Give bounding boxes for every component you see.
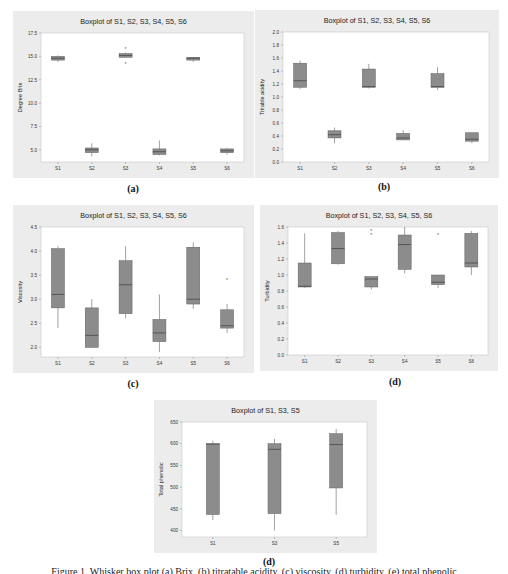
y-tick-label: 2.0 bbox=[31, 345, 38, 350]
box-iqr bbox=[398, 235, 411, 269]
x-tick-label: S6 bbox=[469, 359, 475, 364]
box-s5 bbox=[187, 242, 200, 308]
boxplot-chart: Boxplot of S1, S2, S3, S4, S5, S65.07.51… bbox=[13, 11, 254, 178]
outlier-marker: * bbox=[226, 277, 228, 283]
box-s1 bbox=[206, 441, 219, 520]
sublabel-d: (d) bbox=[375, 376, 415, 387]
y-axis-label: Total phenolic bbox=[158, 462, 164, 496]
box-iqr bbox=[51, 249, 64, 308]
x-tick-label: S3 bbox=[123, 361, 129, 366]
x-tick-label: S6 bbox=[224, 166, 230, 171]
box-iqr bbox=[187, 57, 200, 60]
chart-panel-d: Boxplot of S1, S2, S3, S4, S5, S60.00.20… bbox=[260, 205, 498, 371]
box-iqr bbox=[206, 444, 219, 515]
y-tick-label: 2.0 bbox=[273, 30, 280, 35]
y-tick-label: 7.5 bbox=[31, 124, 38, 129]
y-tick-label: 0.4 bbox=[273, 134, 280, 139]
y-axis-label: Turbidity bbox=[264, 280, 270, 301]
y-tick-label: 1.4 bbox=[273, 69, 280, 74]
x-tick-label: S1 bbox=[55, 166, 61, 171]
boxplot-chart: Boxplot of S1, S2, S3, S4, S5, S60.00.20… bbox=[260, 205, 498, 371]
x-tick-label: S5 bbox=[333, 541, 339, 546]
y-tick-label: 4.0 bbox=[31, 249, 38, 254]
y-tick-label: 450 bbox=[170, 507, 178, 512]
box-iqr bbox=[85, 148, 98, 153]
x-tick-label: S6 bbox=[224, 361, 230, 366]
x-tick-label: S5 bbox=[435, 359, 441, 364]
chart-title: Boxplot of S1, S2, S3, S4, S5, S6 bbox=[326, 211, 433, 220]
y-axis-label: Degree Brix bbox=[17, 83, 23, 113]
x-tick-label: S2 bbox=[335, 359, 341, 364]
x-tick-label: S6 bbox=[469, 166, 475, 171]
chart-panel-c: Boxplot of S1, S2, S3, S4, S5, S62.02.53… bbox=[13, 205, 254, 373]
y-tick-label: 1.8 bbox=[273, 43, 280, 48]
box-iqr bbox=[397, 133, 410, 140]
x-tick-label: S5 bbox=[190, 361, 196, 366]
y-tick-label: 1.2 bbox=[273, 82, 280, 87]
y-tick-label: 1.4 bbox=[278, 241, 285, 246]
y-tick-label: 4.5 bbox=[31, 225, 38, 230]
y-tick-label: 400 bbox=[170, 528, 178, 533]
y-tick-label: 1.2 bbox=[278, 257, 285, 262]
y-tick-label: 2.5 bbox=[31, 321, 38, 326]
plot-area bbox=[41, 227, 244, 357]
outlier-marker: * bbox=[125, 46, 127, 52]
box-iqr bbox=[332, 233, 345, 264]
box-iqr bbox=[365, 277, 378, 287]
chart-title: Boxplot of S1, S3, S5 bbox=[231, 406, 299, 415]
y-tick-label: 0.6 bbox=[273, 121, 280, 126]
box-iqr bbox=[465, 233, 478, 267]
x-tick-label: S4 bbox=[402, 359, 408, 364]
y-tick-label: 0.8 bbox=[278, 289, 285, 294]
x-tick-label: S1 bbox=[55, 361, 61, 366]
box-iqr bbox=[330, 434, 343, 488]
y-tick-label: 0.6 bbox=[278, 305, 285, 310]
y-tick-label: 0.2 bbox=[273, 147, 280, 152]
figure-caption: Figure 1. Whisker box plot (a) Brix, (b)… bbox=[0, 566, 508, 574]
y-tick-label: 1.6 bbox=[273, 56, 280, 61]
y-tick-label: 0.0 bbox=[278, 353, 285, 358]
box-iqr bbox=[85, 308, 98, 347]
x-tick-label: S1 bbox=[210, 541, 216, 546]
x-tick-label: S3 bbox=[366, 166, 372, 171]
y-tick-label: 550 bbox=[170, 463, 178, 468]
outlier-marker: * bbox=[437, 232, 439, 238]
boxplot-chart: Boxplot of S1, S3, S5400450500550600650T… bbox=[154, 400, 377, 553]
sublabel-b: (b) bbox=[364, 181, 404, 192]
x-tick-label: S4 bbox=[157, 166, 163, 171]
x-tick-label: S1 bbox=[302, 359, 308, 364]
box-iqr bbox=[294, 63, 307, 87]
boxplot-chart: Boxplot of S1, S2, S3, S4, S5, S62.02.53… bbox=[13, 205, 254, 373]
x-tick-label: S1 bbox=[297, 166, 303, 171]
x-tick-label: S4 bbox=[400, 166, 406, 171]
y-tick-label: 15.0 bbox=[28, 54, 37, 59]
x-tick-label: S5 bbox=[190, 166, 196, 171]
y-tick-label: 0.4 bbox=[278, 321, 285, 326]
chart-title: Boxplot of S1, S2, S3, S4, S5, S6 bbox=[80, 17, 187, 26]
box-iqr bbox=[153, 319, 166, 341]
box-s1 bbox=[294, 61, 307, 90]
box-iqr bbox=[187, 247, 200, 304]
x-tick-label: S5 bbox=[435, 166, 441, 171]
y-tick-label: 1.6 bbox=[278, 225, 285, 230]
chart-panel-e: Boxplot of S1, S3, S5400450500550600650T… bbox=[154, 400, 377, 553]
x-tick-label: S2 bbox=[89, 361, 95, 366]
sublabel-c: (c) bbox=[113, 378, 153, 389]
x-tick-label: S3 bbox=[272, 541, 278, 546]
y-tick-label: 0.0 bbox=[273, 160, 280, 165]
chart-title: Boxplot of S1, S2, S3, S4, S5, S6 bbox=[80, 211, 187, 220]
chart-panel-b: Boxplot of S1, S2, S3, S4, S5, S60.00.20… bbox=[255, 10, 499, 178]
chart-panel-a: Boxplot of S1, S2, S3, S4, S5, S65.07.51… bbox=[13, 11, 254, 178]
y-tick-label: 0.2 bbox=[278, 337, 285, 342]
y-tick-label: 0.8 bbox=[273, 108, 280, 113]
x-tick-label: S3 bbox=[369, 359, 375, 364]
box-iqr bbox=[431, 74, 444, 88]
chart-title: Boxplot of S1, S2, S3, S4, S5, S6 bbox=[324, 16, 431, 25]
y-tick-label: 1.0 bbox=[278, 273, 285, 278]
box-iqr bbox=[362, 69, 375, 87]
box-s2 bbox=[332, 231, 345, 265]
y-tick-label: 600 bbox=[170, 441, 178, 446]
sublabel-a: (a) bbox=[113, 183, 153, 194]
y-tick-label: 1.0 bbox=[273, 95, 280, 100]
y-axis-label: Viscosity bbox=[17, 281, 23, 303]
